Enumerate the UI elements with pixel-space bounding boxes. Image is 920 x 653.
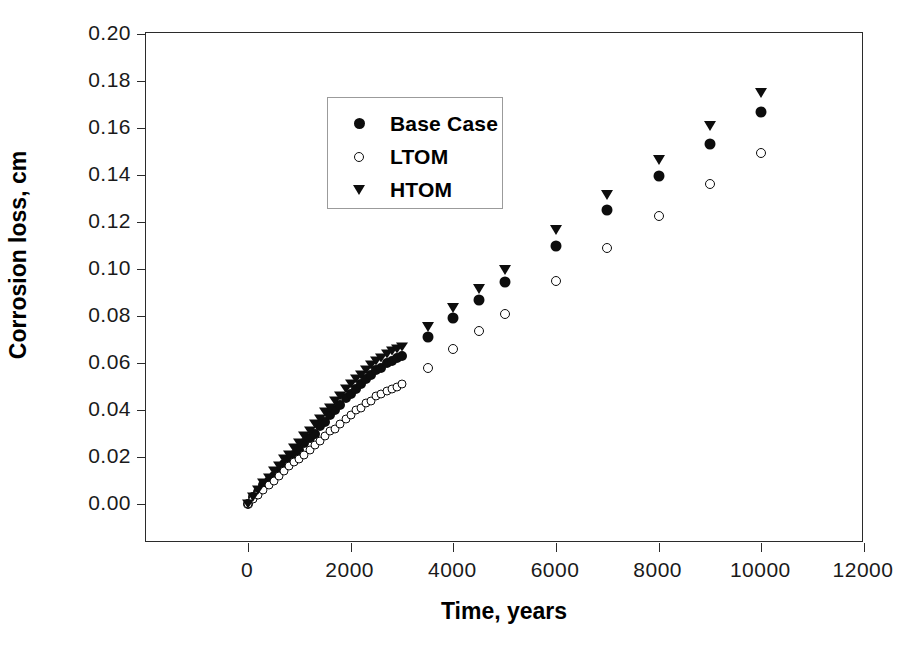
ltom-point [551,276,561,286]
ltom-point [602,243,612,253]
open-circle-icon [328,152,390,162]
htom-point [601,190,613,200]
x-tick [659,543,660,552]
ltom-point [756,148,766,158]
ltom-point [654,211,664,221]
x-tick-label: 6000 [531,558,580,582]
base-case-point [653,171,664,182]
x-tick [351,543,352,552]
ltom-point [448,344,458,354]
legend-label: HTOM [390,178,452,202]
x-tick [864,543,865,552]
legend-label: LTOM [390,145,448,169]
data-points-layer [146,33,864,543]
y-tick-label: 0.02 [88,444,131,468]
x-tick [556,543,557,552]
x-tick-label: 8000 [633,558,682,582]
y-tick-label: 0.08 [88,303,131,327]
y-tick-label: 0.04 [88,397,131,421]
base-case-point [422,332,433,343]
ltom-point [398,380,407,389]
y-tick-label: 0.12 [88,209,131,233]
x-tick-label: 4000 [428,558,477,582]
x-tick [453,543,454,552]
htom-point [704,121,716,131]
base-case-point [551,240,562,251]
htom-point [422,322,434,332]
htom-point [396,342,408,351]
plot-frame: Base Case LTOM HTOM [145,32,863,542]
x-tick-label: 12000 [833,558,894,582]
y-axis-label: Corrosion loss, cm [5,151,32,359]
y-tick-label: 0.16 [88,115,131,139]
y-tick-label: 0.06 [88,350,131,374]
chart-figure: Corrosion loss, cm Base Case LTOM HTOM 0… [0,0,920,653]
y-tick-label: 0.14 [88,162,131,186]
legend-item-base-case: Base Case [328,107,502,140]
y-tick [137,269,146,270]
y-tick [137,504,146,505]
y-tick [137,222,146,223]
x-tick-label: 0 [241,558,253,582]
x-tick-label: 2000 [325,558,374,582]
htom-point [447,303,459,313]
base-case-point [474,294,485,305]
x-axis-label: Time, years [145,598,863,625]
y-tick [137,81,146,82]
base-case-point [756,106,767,117]
x-tick [248,543,249,552]
ltom-point [423,363,433,373]
y-tick [137,363,146,364]
y-tick [137,316,146,317]
y-tick [137,457,146,458]
ltom-point [474,326,484,336]
base-case-point [705,139,716,150]
y-tick-label: 0.10 [88,256,131,280]
base-case-point [499,276,510,287]
y-tick-label: 0.00 [88,491,131,515]
legend-item-htom: HTOM [328,173,502,206]
y-tick-label: 0.20 [88,21,131,45]
legend-label: Base Case [390,112,498,136]
filled-circle-icon [328,118,390,129]
base-case-point [448,313,459,324]
legend: Base Case LTOM HTOM [327,97,503,209]
htom-point [499,265,511,275]
htom-point [473,284,485,294]
y-axis-label-container: Corrosion loss, cm [18,0,19,510]
legend-item-ltom: LTOM [328,140,502,173]
y-tick [137,175,146,176]
htom-point [653,155,665,165]
y-tick [137,410,146,411]
htom-point [755,88,767,98]
ltom-point [705,179,715,189]
htom-point [550,225,562,235]
triangle-down-icon [328,185,390,195]
y-tick [137,34,146,35]
ltom-point [500,309,510,319]
y-tick [137,128,146,129]
y-tick-label: 0.18 [88,68,131,92]
base-case-point [602,205,613,216]
x-tick-label: 10000 [730,558,791,582]
x-tick [761,543,762,552]
